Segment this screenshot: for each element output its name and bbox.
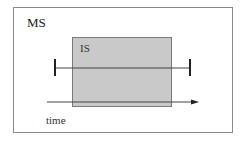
ms-is-time-diagram: MS IS time	[0, 0, 243, 141]
diagram-lines	[0, 0, 243, 141]
time-label: time	[46, 114, 66, 126]
arrowhead-icon	[191, 100, 199, 105]
interval-bar	[55, 59, 190, 76]
time-axis	[47, 100, 199, 105]
